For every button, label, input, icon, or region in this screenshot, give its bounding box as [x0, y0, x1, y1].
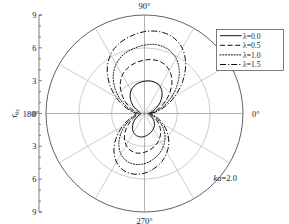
radial-axis-ticks — [39, 15, 42, 212]
grid-spoke-120 — [95, 28, 144, 113]
radial-tick-label-1: 6 — [32, 43, 36, 53]
radial-tick-label-5: 6 — [32, 174, 36, 184]
angle-label-270: 270° — [136, 216, 152, 224]
curve-λ=0.0 — [130, 81, 162, 137]
grid-spoke-210 — [59, 114, 144, 163]
polar-plot-svg: 9630369 0°90°180°270° τ̄θz ka=2.0 λ=0.0λ… — [0, 0, 289, 224]
radial-tick-label-6: 9 — [32, 207, 36, 217]
angle-label-180: 180° — [23, 109, 39, 119]
angle-label-90: 90° — [139, 1, 151, 11]
grid-spoke-240 — [95, 114, 144, 199]
y-axis-title: τ̄θz — [10, 109, 20, 118]
angle-label-0: 0° — [252, 109, 260, 119]
radial-tick-label-0: 9 — [32, 10, 36, 20]
radial-tick-label-4: 3 — [32, 141, 36, 151]
legend: λ=0.0λ=0.5λ=1.0λ=1.5 — [217, 30, 284, 71]
ka-annotation: ka=2.0 — [214, 173, 237, 183]
legend-label-2: λ=1.0 — [243, 51, 261, 60]
legend-label-3: λ=1.5 — [243, 60, 261, 69]
legend-label-0: λ=0.0 — [243, 32, 261, 41]
grid-spoke-300 — [145, 114, 194, 199]
radial-tick-label-2: 3 — [32, 76, 36, 86]
svg-text:τ̄θz: τ̄θz — [10, 109, 20, 118]
data-curves — [107, 31, 185, 174]
polar-chart-figure: 9630369 0°90°180°270° τ̄θz ka=2.0 λ=0.0λ… — [0, 0, 289, 224]
legend-label-1: λ=0.5 — [243, 41, 261, 50]
curve-λ=0.5 — [120, 60, 172, 154]
curve-λ=1.5 — [107, 31, 185, 174]
